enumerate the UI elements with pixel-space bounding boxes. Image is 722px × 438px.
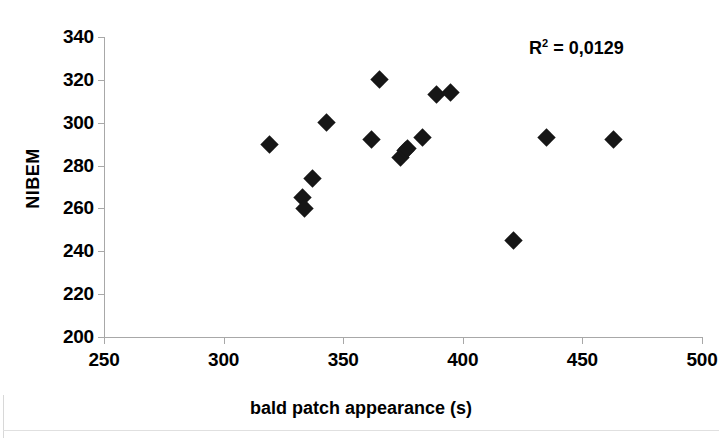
y-axis-title: NIBEM <box>23 119 44 239</box>
data-point-marker <box>303 169 321 187</box>
x-axis-tick-label: 300 <box>184 349 264 371</box>
data-point-marker <box>604 131 622 149</box>
x-axis-tick-label: 250 <box>64 349 144 371</box>
plot-area <box>104 37 702 337</box>
x-axis-tick-mark <box>702 338 703 344</box>
x-axis-tick-label: 400 <box>423 349 503 371</box>
x-axis-tick-label: 350 <box>303 349 383 371</box>
y-axis-tick-label: 320 <box>34 69 94 91</box>
x-axis-title: bald patch appearance (s) <box>0 398 722 419</box>
data-point-marker <box>317 114 335 132</box>
x-axis-tick-label: 450 <box>542 349 622 371</box>
x-axis-tick-mark <box>463 338 464 344</box>
y-axis-tick-label: 240 <box>34 240 94 262</box>
data-point-marker <box>537 129 555 147</box>
x-axis-tick-mark <box>224 338 225 344</box>
y-axis-tick-label: 200 <box>34 326 94 348</box>
data-point-marker <box>442 84 460 102</box>
data-point-marker <box>413 129 431 147</box>
y-axis-tick-label: 220 <box>34 283 94 305</box>
data-point-marker <box>363 131 381 149</box>
x-axis-tick-mark <box>104 338 105 344</box>
y-axis-tick-label: 340 <box>34 26 94 48</box>
x-axis-tick-label: 500 <box>662 349 722 371</box>
x-axis-tick-mark <box>582 338 583 344</box>
data-point-marker <box>260 135 278 153</box>
scan-artifact-bottom <box>3 430 719 431</box>
data-point-marker <box>370 71 388 89</box>
x-axis-line <box>104 337 703 338</box>
x-axis-tick-mark <box>343 338 344 344</box>
scatter-chart: 200220240260280300320340 250300350400450… <box>0 0 722 438</box>
data-point-marker <box>504 231 522 249</box>
